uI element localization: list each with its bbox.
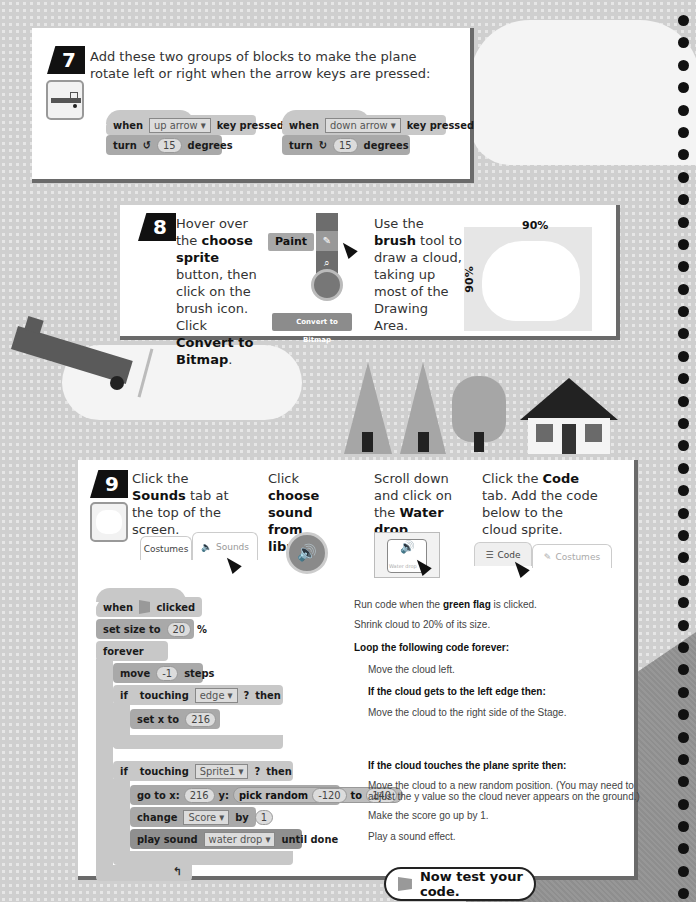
sound-dropdown[interactable]: water drop ▾ [204,832,276,847]
tab-costumes-2[interactable]: ✎Costumes [532,544,612,568]
binder-dots [678,15,692,902]
touching-dropdown[interactable]: Sprite1 ▾ [195,764,249,779]
house-window-left [536,424,553,442]
water-drop-sound-tile[interactable]: 🔊 Water drop [374,532,440,578]
if-bottom [113,851,293,865]
steps-input[interactable]: -1 [156,666,178,681]
when-flag-clicked-block[interactable]: when clicked [96,597,202,617]
step-7-number: 7 [47,46,85,74]
step-7-card: 7 Add these two groups of blocks to make… [32,28,474,183]
step-9-number: 9 [90,470,128,498]
desc-if-touches-plane: If the cloud touches the plane sprite th… [368,760,566,771]
block-label: when [289,119,319,132]
rotate-left-icon: ↺ [143,139,151,152]
brush-icon: ✎ [544,552,552,562]
degrees-input[interactable]: 15 [157,138,182,153]
if-arm [113,779,130,859]
if-touching-sprite-block[interactable]: if touching Sprite1 ▾ ? then [113,761,293,781]
block-label: degrees [188,139,233,152]
code-icon: ☰ [485,550,493,560]
choose-sound-button[interactable]: 🔊 [286,532,328,574]
rotate-right-icon: ↻ [319,139,327,152]
desc-score: Make the score go up by 1. [368,810,489,821]
desc-shrink: Shrink cloud to 20% of its size. [354,619,490,630]
block-label: key pressed [217,119,284,132]
size-input[interactable]: 20 [167,622,192,637]
key-dropdown[interactable]: down arrow ▾ [325,118,401,133]
drawing-area [464,227,592,331]
random-from-input[interactable]: -120 [312,788,346,803]
sprite-menu: ✎ ⌕ [316,213,338,275]
step-9-card: 9 Click the Sounds tab at the top of the… [78,460,638,880]
turn-left-block[interactable]: turn ↺ 15 degrees [106,135,222,155]
desc-loop-forever: Loop the following code forever: [354,642,509,653]
set-size-block[interactable]: set size to 20 % [96,619,194,639]
when-key-pressed-block-up[interactable]: when up arrow ▾ key pressed [106,115,256,135]
loop-arrow-icon: ↰ [173,865,182,878]
block-label: when [113,119,143,132]
change-value-input[interactable]: 1 [255,810,273,825]
x-input[interactable]: 216 [185,712,216,727]
desc-sound: Play a sound effect. [368,831,456,842]
step-8-card: 8 Hover over the choose sprite button, t… [120,205,620,340]
step-9-col3: Scroll down and click on the Water drop. [374,470,468,538]
move-block[interactable]: move -1 steps [113,663,203,683]
block-label: turn [113,139,137,152]
tree-1-trunk [362,432,373,452]
block-label: key pressed [407,119,474,132]
block-label: turn [289,139,313,152]
tab-sounds[interactable]: 🔈Sounds [192,532,258,560]
house-roof [520,378,618,420]
house-window-right [585,424,602,442]
green-flag-icon [139,600,150,614]
step-9-col1: Click the Sounds tab at the top of the s… [132,470,232,538]
desc-move-left: Move the cloud left. [368,664,455,675]
plane-sprite-thumbnail [46,80,84,120]
tree-2-trunk [418,432,429,452]
tree-3-trunk [474,432,484,452]
mouse-cursor-icon [338,239,357,259]
set-x-block[interactable]: set x to 216 [130,709,220,729]
plane-icon [51,98,81,103]
desc-random-position-1: Move the cloud to a new random position.… [368,780,634,791]
step-9-col4: Click the Code tab. Add the code below t… [482,470,602,538]
tab-costumes[interactable]: Costumes [140,536,192,560]
turn-right-block[interactable]: turn ↻ 15 degrees [282,135,410,155]
step-8-brush-instructions: Use the brush tool to draw a cloud, taki… [374,215,462,334]
convert-to-bitmap-button[interactable]: Convert to Bitmap [272,313,352,331]
background-cloud-top-right [470,20,696,165]
play-sound-block[interactable]: play sound water drop ▾ until done [130,829,302,849]
cloud-sprite-thumbnail [90,502,128,542]
speaker-icon: 🔈 [201,542,212,552]
height-90-label: 90% [463,266,476,292]
when-key-pressed-block-down[interactable]: when down arrow ▾ key pressed [282,115,446,135]
brush-icon[interactable]: ✎ [316,231,338,251]
desc-green-flag: Run code when the green flag is clicked. [354,599,537,610]
step-7-instructions: Add these two groups of blocks to make t… [90,48,450,82]
if-bottom [113,735,283,749]
step-8-instructions: Hover over the choose sprite button, the… [176,215,268,368]
desc-random-position-2: adjust the y value so the cloud never ap… [368,791,640,802]
choose-sprite-button[interactable] [311,269,343,301]
cloud-icon [96,510,122,534]
block-label: degrees [364,139,409,152]
desc-move-right: Move the cloud to the right side of the … [368,707,566,718]
touching-dropdown[interactable]: edge ▾ [195,688,238,703]
width-90-label: 90% [522,219,548,232]
forever-bottom: ↰ [96,865,192,881]
forever-block[interactable]: forever [96,641,168,661]
step-8-number: 8 [138,213,176,241]
key-dropdown[interactable]: up arrow ▾ [149,118,211,133]
now-test-your-code-button[interactable]: Now test your code. [384,867,536,901]
house-door [562,424,576,454]
go-to-xy-block[interactable]: go to x: 216 y: pick random -120 to 140 [130,785,340,805]
variable-dropdown[interactable]: Score ▾ [183,810,229,825]
forever-arm [96,659,113,869]
if-touching-edge-block[interactable]: if touching edge ▾ ? then [113,685,283,705]
drawn-cloud [482,241,580,321]
degrees-input[interactable]: 15 [333,138,358,153]
test-button-label: Now test your code. [420,869,534,899]
green-flag-icon [398,877,412,891]
x-input[interactable]: 216 [184,788,215,803]
change-score-block[interactable]: change Score ▾ by 1 [130,807,256,827]
